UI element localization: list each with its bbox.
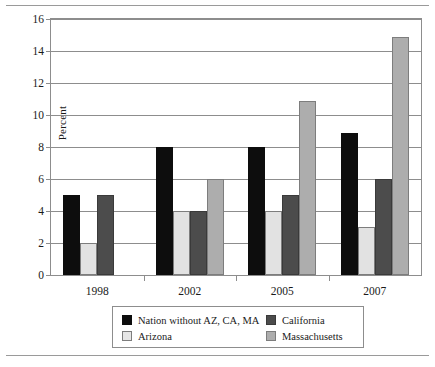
x-tick-mark [144,275,145,281]
y-tick-mark [46,179,51,180]
y-tick-label: 4 [38,205,44,217]
y-tick-mark [46,147,51,148]
y-tick-mark [46,243,51,244]
bar [375,179,392,275]
bar [207,179,224,275]
y-tick-label: 10 [33,109,45,121]
x-tick-mark [236,275,237,281]
gridline [51,179,421,180]
chart-legend: Nation without AZ, CA, MA California Ari… [112,306,364,348]
x-tick-mark [329,275,330,281]
x-tick-label: 1998 [86,285,109,297]
y-tick-mark [46,275,51,276]
y-tick-label: 0 [38,269,44,281]
x-tick-label: 2002 [178,285,201,297]
y-tick-mark [46,51,51,52]
y-tick-mark [46,115,51,116]
legend-label: California [282,315,325,326]
y-tick-label: 2 [38,237,44,249]
bar [173,211,190,275]
y-tick-label: 14 [33,45,45,57]
bar [392,37,409,275]
bar [63,195,80,275]
gridline [51,19,421,20]
x-tick-label: 2005 [271,285,294,297]
chart-figure: Percent 02468101214161998200220052007 Na… [0,0,435,367]
y-tick-label: 12 [33,77,45,89]
legend-item-california[interactable]: California [266,315,325,326]
legend-label: Arizona [138,331,172,342]
bar [248,147,265,275]
legend-swatch-icon [122,315,132,325]
bar [190,211,207,275]
legend-swatch-icon [266,315,276,325]
plot-frame: Percent 02468101214161998200220052007 [50,18,422,276]
legend-row: Arizona Massachusetts [122,328,363,344]
legend-label: Nation without AZ, CA, MA [138,315,259,326]
legend-item-arizona[interactable]: Arizona [122,331,266,342]
top-divider-rule [6,5,429,6]
bottom-divider-rule [6,355,429,356]
gridline [51,147,421,148]
bar [97,195,114,275]
legend-swatch-icon [122,331,132,341]
legend-row: Nation without AZ, CA, MA California [122,312,363,328]
y-tick-label: 8 [38,141,44,153]
gridline [51,83,421,84]
bar [358,227,375,275]
bar [341,133,358,275]
legend-item-nation[interactable]: Nation without AZ, CA, MA [122,315,266,326]
bar [299,101,316,275]
plot-area: 02468101214161998200220052007 [51,19,421,275]
y-tick-label: 6 [38,173,44,185]
legend-label: Massachusetts [282,331,343,342]
x-tick-label: 2007 [363,285,386,297]
y-tick-mark [46,83,51,84]
y-tick-mark [46,211,51,212]
gridline [51,51,421,52]
bar [282,195,299,275]
legend-swatch-icon [266,331,276,341]
bar [156,147,173,275]
gridline [51,115,421,116]
y-tick-mark [46,19,51,20]
bar [265,211,282,275]
bar [80,243,97,275]
legend-item-massachusetts[interactable]: Massachusetts [266,331,343,342]
y-tick-label: 16 [33,13,45,25]
